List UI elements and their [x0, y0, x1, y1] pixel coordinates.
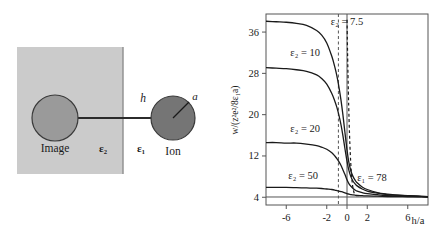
- medium-label-78: ε₁ = 78: [357, 172, 387, 183]
- energy-plot-panel: 412202836 -6-2026 ε₂ = 7.5ε₂ = 10ε₂ = 20…: [222, 0, 444, 239]
- slab-permittivity-label: ε₂: [99, 142, 108, 154]
- curve-label-20: ε₂ = 20: [290, 123, 320, 134]
- y-axis-title: w/(z²e²/8ε₁a): [230, 86, 241, 135]
- medium-permittivity-label: ε₁: [137, 142, 145, 154]
- y-tick-label: 20: [249, 109, 260, 120]
- y-axis-ticks: 412202836: [249, 27, 267, 203]
- separation-distance-label: h: [140, 92, 146, 104]
- x-tick-label: 0: [344, 212, 349, 223]
- y-tick-label: 4: [254, 192, 260, 203]
- ion-radius-label: a: [192, 90, 198, 102]
- x-tick-label: -2: [322, 212, 331, 223]
- x-tick-label: -6: [282, 212, 291, 223]
- curve-label-75: ε₂ = 7.5: [331, 16, 363, 27]
- ion-label: Ion: [165, 145, 181, 157]
- chart-svg: 412202836 -6-2026 ε₂ = 7.5ε₂ = 10ε₂ = 20…: [222, 0, 444, 239]
- y-tick-label: 12: [249, 150, 260, 161]
- x-axis-ticks: -6-2026: [282, 205, 411, 223]
- image-charge-circle: [32, 95, 78, 141]
- image-label: Image: [41, 142, 70, 155]
- curve-label-10: ε₂ = 10: [290, 47, 320, 58]
- x-tick-label: 2: [365, 212, 370, 223]
- x-axis-title: h/a: [412, 215, 425, 226]
- schematic-diagram-panel: Image Ion ε₂ ε₁ h a: [0, 0, 222, 239]
- diagram-svg: Image Ion ε₂ ε₁ h a: [0, 0, 222, 239]
- curve-label-50: ε₂ = 50: [288, 170, 318, 181]
- x-tick-label: 6: [405, 212, 410, 223]
- y-tick-label: 28: [249, 68, 260, 79]
- figure-container: Image Ion ε₂ ε₁ h a 412202836 -6-2026 ε₂…: [0, 0, 444, 239]
- y-tick-label: 36: [249, 27, 260, 38]
